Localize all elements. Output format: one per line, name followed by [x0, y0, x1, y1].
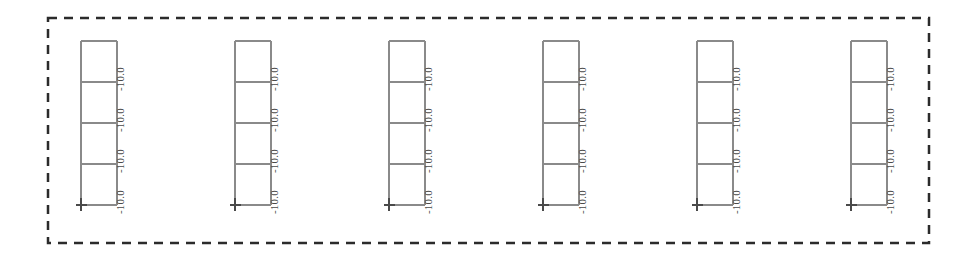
load-label[interactable]: -10.0	[423, 108, 434, 132]
structural-frame[interactable]: -10.0-10.0-10.0-10.0	[359, 0, 455, 260]
load-label[interactable]: -10.0	[885, 67, 896, 91]
structural-frame[interactable]: -10.0-10.0-10.0-10.0	[667, 0, 763, 260]
load-label[interactable]: -10.0	[731, 190, 742, 214]
load-label[interactable]: -10.0	[269, 190, 280, 214]
base-support-marker[interactable]	[230, 198, 241, 211]
selection-boundary-rect[interactable]	[48, 18, 929, 243]
load-label[interactable]: -10.0	[731, 67, 742, 91]
load-label[interactable]: -10.0	[423, 67, 434, 91]
load-label[interactable]: -10.0	[577, 149, 588, 173]
load-label[interactable]: -10.0	[885, 190, 896, 214]
base-support-marker[interactable]	[846, 198, 857, 211]
base-support-marker[interactable]	[384, 198, 395, 211]
load-label[interactable]: -10.0	[577, 190, 588, 214]
base-support-marker[interactable]	[692, 198, 703, 211]
load-label[interactable]: -10.0	[269, 108, 280, 132]
load-label[interactable]: -10.0	[885, 108, 896, 132]
load-label[interactable]: -10.0	[731, 149, 742, 173]
load-label[interactable]: -10.0	[115, 108, 126, 132]
diagram-canvas: -10.0-10.0-10.0-10.0-10.0-10.0-10.0-10.0…	[0, 0, 975, 260]
structural-frame[interactable]: -10.0-10.0-10.0-10.0	[205, 0, 301, 260]
structural-frame[interactable]: -10.0-10.0-10.0-10.0	[51, 0, 147, 260]
structural-frame[interactable]: -10.0-10.0-10.0-10.0	[513, 0, 609, 260]
structural-frame[interactable]: -10.0-10.0-10.0-10.0	[821, 0, 917, 260]
base-support-marker[interactable]	[76, 198, 87, 211]
load-label[interactable]: -10.0	[269, 149, 280, 173]
load-label[interactable]: -10.0	[577, 108, 588, 132]
load-label[interactable]: -10.0	[115, 67, 126, 91]
load-label[interactable]: -10.0	[731, 108, 742, 132]
load-label[interactable]: -10.0	[115, 190, 126, 214]
load-label[interactable]: -10.0	[885, 149, 896, 173]
load-label[interactable]: -10.0	[423, 190, 434, 214]
load-label[interactable]: -10.0	[577, 67, 588, 91]
load-label[interactable]: -10.0	[269, 67, 280, 91]
base-support-marker[interactable]	[538, 198, 549, 211]
load-label[interactable]: -10.0	[423, 149, 434, 173]
load-label[interactable]: -10.0	[115, 149, 126, 173]
